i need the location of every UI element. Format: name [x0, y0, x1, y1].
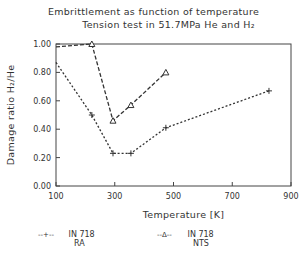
triangle-marker-icon	[163, 69, 169, 75]
y-tick-label: 0.80	[33, 68, 51, 77]
x-tick-label: 700	[225, 192, 240, 201]
y-tick-label: 0.60	[33, 97, 51, 106]
series-line	[56, 44, 166, 121]
legend-sublabel: RA	[38, 239, 95, 248]
line-chart: 1003005007009000.000.200.400.600.801.00T…	[0, 0, 307, 262]
triangle-marker-icon	[128, 102, 134, 108]
legend-sublabel: NTS	[157, 239, 214, 248]
y-tick-label: 0.40	[33, 125, 51, 134]
y-tick-label: 0.20	[33, 154, 51, 163]
y-tick-label: 1.00	[33, 40, 51, 49]
plus-marker-icon	[266, 88, 272, 94]
y-axis-label: Damage ratio H₂/He	[5, 65, 16, 166]
triangle-marker-icon	[110, 118, 116, 124]
x-tick-label: 300	[107, 192, 122, 201]
legend-item-nts: --Δ-- IN 718 NTS	[157, 230, 214, 248]
legend-item-ra: --+-- IN 718 RA	[38, 230, 95, 248]
x-tick-label: 500	[166, 192, 181, 201]
legend-marker-plus-icon: --+--	[38, 231, 66, 239]
plus-marker-icon	[110, 150, 116, 156]
y-tick-label: 0.00	[33, 182, 51, 191]
x-tick-label: 100	[48, 192, 63, 201]
legend-label: IN 718	[69, 230, 95, 239]
legend-label: IN 718	[188, 230, 214, 239]
legend-marker-triangle-icon: --Δ--	[157, 231, 185, 239]
x-axis-label: Temperature [K]	[142, 209, 224, 220]
x-tick-label: 900	[283, 192, 298, 201]
